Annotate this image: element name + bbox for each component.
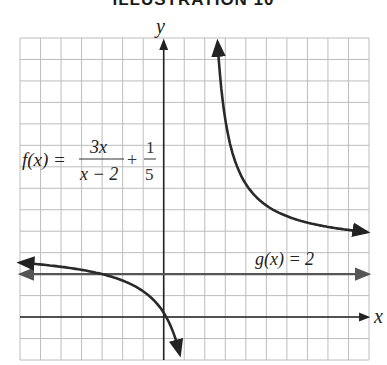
grid — [20, 38, 369, 360]
c-denominator: 5 — [145, 165, 154, 184]
x-axis-label: x — [373, 305, 383, 327]
f-left-branch — [20, 263, 180, 354]
c-numerator: 1 — [146, 138, 155, 157]
g-label: g(x) = 2 — [255, 249, 314, 270]
f-plus: + — [127, 150, 137, 170]
f-formula-label: f(x) = 3x x − 2 + 1 5 — [22, 137, 156, 184]
y-axis-label: y — [154, 15, 165, 38]
f-denominator: x − 2 — [79, 164, 118, 184]
f-numerator: 3x — [89, 137, 107, 157]
f-right-branch — [218, 42, 367, 232]
plot-area: y x f(x) = 3x x − 2 + 1 5 g(x) = 2 — [0, 0, 387, 365]
curves — [20, 42, 368, 354]
axes — [20, 41, 368, 360]
f-prefix: f(x) = — [22, 149, 66, 171]
